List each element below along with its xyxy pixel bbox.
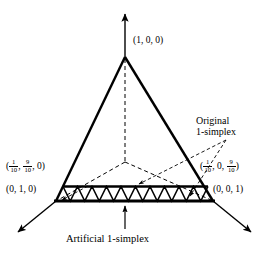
vertex-label-left-fraction: ( 1 10 , 9 10 , 0) bbox=[6, 159, 45, 173]
axis-ray-right-arrow bbox=[213, 201, 251, 232]
annotation-artificial-1-simplex: Artificial 1-simplex bbox=[66, 233, 149, 244]
simplex-diagram-figure: (1, 0, 0) ( 1 10 , 9 10 , 0) (0, 1, 0) (… bbox=[0, 0, 269, 254]
left-fraction-first-denominator: 10 bbox=[9, 166, 18, 174]
axis-ray-left-arrow bbox=[18, 201, 56, 232]
right-fraction-third-numerator: 9 bbox=[227, 159, 236, 166]
right-fraction-comma-2: , bbox=[222, 161, 227, 171]
vertex-label-apex: (1, 0, 0) bbox=[133, 36, 163, 46]
outer-simplex-triangle bbox=[56, 57, 213, 201]
dashed-center-to-left-line bbox=[58, 162, 125, 200]
right-fraction-third-term: 9 10 bbox=[227, 159, 236, 173]
vertex-label-right: (0, 0, 1) bbox=[213, 185, 243, 195]
right-fraction-third-denominator: 10 bbox=[227, 166, 236, 174]
left-fraction-first-term: 1 10 bbox=[9, 159, 18, 173]
left-fraction-first-numerator: 1 bbox=[9, 159, 18, 166]
left-fraction-second-denominator: 10 bbox=[23, 166, 32, 174]
triangle-left-edge bbox=[56, 57, 125, 201]
vertex-label-right-fraction: ( 1 10 , 0, 9 10 ) bbox=[200, 159, 239, 173]
left-fraction-second-numerator: 9 bbox=[23, 159, 32, 166]
right-fraction-first-term: 1 10 bbox=[203, 159, 212, 173]
dashed-interior-lines bbox=[58, 59, 211, 200]
left-fraction-close-paren: ) bbox=[42, 161, 45, 171]
left-fraction-comma-1: , bbox=[18, 161, 23, 171]
annotation-original-line-2: 1-simplex bbox=[196, 127, 236, 138]
right-fraction-close-paren: ) bbox=[236, 161, 239, 171]
right-fraction-first-numerator: 1 bbox=[203, 159, 212, 166]
right-fraction-first-denominator: 10 bbox=[203, 166, 212, 174]
annotation-original-1-simplex: Original 1-simplex bbox=[196, 116, 236, 137]
vertex-label-left: (0, 1, 0) bbox=[6, 185, 36, 195]
annotation-original-line-1: Original bbox=[196, 116, 236, 127]
left-fraction-second-term: 9 10 bbox=[23, 159, 32, 173]
